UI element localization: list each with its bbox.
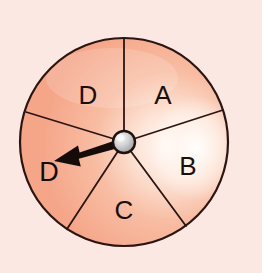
hub-highlight — [116, 135, 124, 142]
spinner-svg: A B C D D — [0, 0, 262, 273]
sector-label-a: A — [154, 80, 172, 110]
hub-knob — [113, 131, 135, 153]
hub-group — [113, 131, 135, 153]
pointer-result-label: D — [39, 157, 59, 187]
sector-label-d-upper: D — [79, 80, 98, 110]
spinner-figure: A B C D D — [0, 0, 262, 273]
sector-label-c: C — [115, 195, 134, 225]
sector-label-b: B — [179, 151, 196, 181]
